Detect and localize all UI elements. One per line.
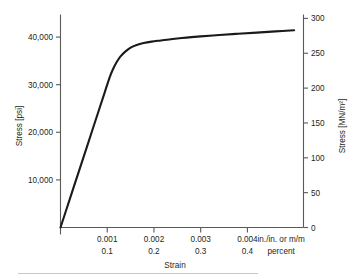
y-tick-label-right: 300 xyxy=(311,14,325,23)
y-tick-label-right: 0 xyxy=(311,224,316,233)
y-tick-label-left: 10,000 xyxy=(28,176,53,185)
x-tick-label-secondary: 0.2 xyxy=(148,247,160,256)
y-axis-title-right: Stress [MN/m²] xyxy=(338,99,347,154)
y-tick-label-right: 100 xyxy=(311,154,325,163)
y-tick-label-right: 200 xyxy=(311,84,325,93)
x-tick-label-primary: 0.004 xyxy=(237,235,258,244)
x-unit-secondary: percent xyxy=(268,247,296,256)
y-tick-label-right: 150 xyxy=(311,119,325,128)
y-tick-label-left: 20,000 xyxy=(28,128,53,137)
caption-rule xyxy=(18,273,258,274)
left-axis: 10,00020,00030,00040,000 xyxy=(28,15,61,235)
x-unit-primary: in./in. or m/m xyxy=(258,235,305,244)
x-axis: 0.0010.10.0020.20.0030.30.0040.4in./in. … xyxy=(61,228,305,257)
x-tick-label-secondary: 0.1 xyxy=(102,247,114,256)
stress-strain-curve xyxy=(61,30,295,227)
x-axis-title: Strain xyxy=(164,261,186,270)
y-tick-label-left: 40,000 xyxy=(28,33,53,42)
x-tick-label-primary: 0.001 xyxy=(97,235,118,244)
stress-strain-chart: 10,00020,00030,00040,0000501001502002503… xyxy=(0,0,361,275)
y-axis-title-left: Stress [psi] xyxy=(15,106,24,147)
x-tick-label-primary: 0.003 xyxy=(190,235,211,244)
x-tick-label-secondary: 0.3 xyxy=(195,247,207,256)
x-tick-label-primary: 0.002 xyxy=(144,235,165,244)
y-tick-label-right: 50 xyxy=(311,189,321,198)
x-tick-label-secondary: 0.4 xyxy=(242,247,254,256)
chart-svg: 10,00020,00030,00040,0000501001502002503… xyxy=(0,0,361,275)
y-tick-label-right: 250 xyxy=(311,49,325,58)
right-axis: 050100150200250300 xyxy=(304,14,326,232)
y-tick-label-left: 30,000 xyxy=(28,81,53,90)
